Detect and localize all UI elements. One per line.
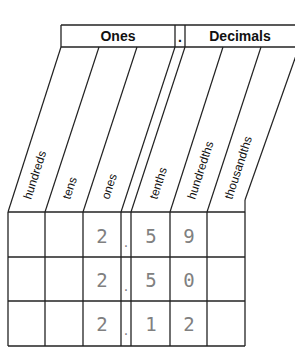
ones-header: Ones — [100, 28, 135, 44]
cell-point: . — [124, 278, 128, 294]
column-label-thousandths: thousandths — [222, 134, 256, 201]
cell-tenths: 5 — [145, 225, 156, 247]
table-row: 2 . 5 0 — [96, 269, 194, 294]
cell-ones: 2 — [96, 225, 107, 247]
column-label-tenths: tenths — [147, 165, 170, 200]
cell-hundredths: 9 — [183, 225, 194, 247]
column-label-hundreds: hundreds — [21, 149, 50, 201]
cell-point: . — [124, 234, 128, 250]
cell-tenths: 5 — [145, 269, 156, 291]
table-row: 2 . 1 2 — [96, 313, 194, 338]
cell-ones: 2 — [96, 269, 107, 291]
place-value-chart: Ones . Decimals hundreds tens ones tenth… — [0, 0, 295, 355]
column-label-ones: ones — [99, 172, 120, 201]
column-label-hundredths: hundredths — [185, 139, 217, 200]
table-row: 2 . 5 9 — [96, 225, 194, 250]
cell-tenths: 1 — [145, 313, 156, 335]
column-label-tens: tens — [60, 175, 80, 201]
cell-hundredths: 2 — [183, 313, 194, 335]
cell-ones: 2 — [96, 313, 107, 335]
cell-point: . — [124, 322, 128, 338]
decimals-header: Decimals — [209, 28, 271, 44]
decimal-point-header: . — [178, 29, 182, 45]
cell-hundredths: 0 — [183, 269, 194, 291]
